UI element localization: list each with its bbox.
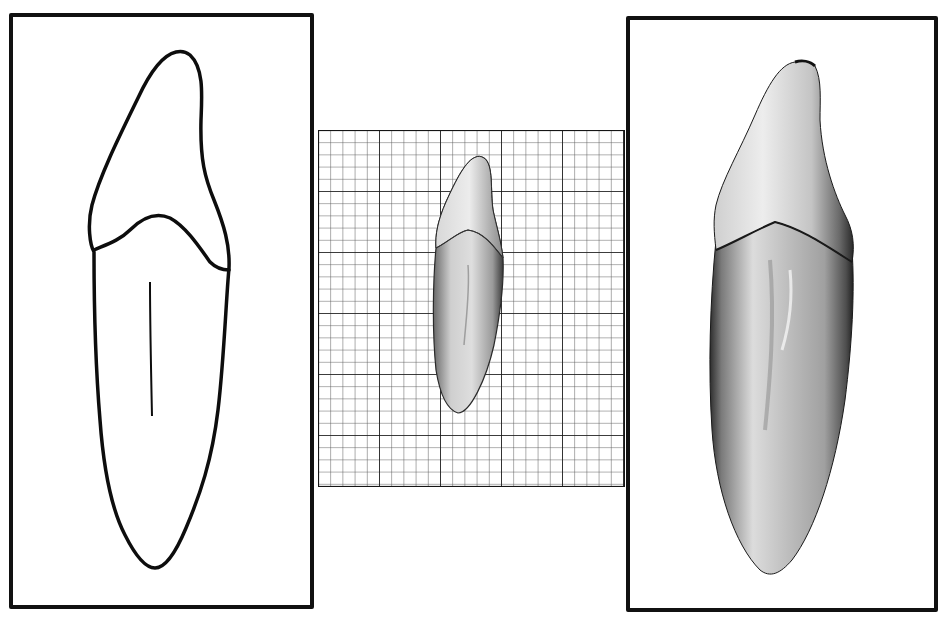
outline-drawing-panel [9, 13, 314, 609]
enlarged-photo-panel [626, 16, 938, 612]
graph-paper-grid [318, 130, 625, 487]
tooth-photo-enlarged [630, 20, 934, 608]
tooth-outline-contour [89, 51, 229, 568]
tooth-outline-drawing [13, 17, 310, 605]
graph-paper-photo [318, 130, 625, 487]
tooth-root [710, 222, 853, 574]
tooth-root-line [150, 282, 152, 416]
tooth-junction-line [94, 216, 229, 270]
